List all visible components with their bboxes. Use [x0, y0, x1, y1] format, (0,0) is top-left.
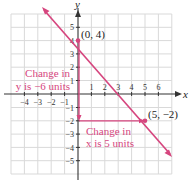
svg-text:−3: −3 — [34, 98, 43, 107]
coordinate-graph: −4 −3 −2 −1 1 2 3 4 5 6 5 4 3 2 1 −1 −2 … — [0, 0, 191, 188]
line-arrow-up-icon — [42, 7, 50, 15]
x-axis-label: x — [182, 88, 188, 100]
line-arrow-down-icon — [165, 150, 173, 158]
svg-text:5: 5 — [143, 83, 147, 92]
svg-text:2: 2 — [103, 83, 107, 92]
svg-text:1: 1 — [89, 83, 93, 92]
svg-text:3: 3 — [116, 83, 120, 92]
svg-text:−5: −5 — [65, 157, 74, 166]
svg-text:2: 2 — [70, 63, 74, 72]
svg-text:−1: −1 — [65, 104, 74, 113]
note-change-x-line2: x is 5 units — [86, 137, 134, 149]
point-0-4 — [76, 38, 81, 43]
svg-text:5: 5 — [70, 23, 74, 32]
svg-text:3: 3 — [70, 50, 74, 59]
point-label-b: (5, −2) — [148, 108, 178, 121]
point-5-neg2 — [143, 119, 148, 124]
svg-text:1: 1 — [70, 77, 74, 86]
svg-text:−4: −4 — [20, 98, 29, 107]
svg-text:−4: −4 — [65, 144, 74, 153]
note-change-y-line1: Change in — [25, 67, 70, 79]
x-axis-arrow-icon — [175, 91, 182, 97]
note-change-y-line2: y is −6 units — [16, 80, 70, 92]
svg-text:−2: −2 — [65, 117, 74, 126]
point-label-a: (0, 4) — [81, 28, 105, 41]
note-change-x-line1: Change in — [86, 125, 131, 137]
arrow-down-icon — [77, 115, 82, 121]
svg-text:−2: −2 — [47, 98, 56, 107]
svg-text:4: 4 — [130, 83, 134, 92]
svg-text:6: 6 — [156, 83, 160, 92]
y-axis-label: y — [74, 0, 80, 10]
svg-text:−3: −3 — [65, 130, 74, 139]
